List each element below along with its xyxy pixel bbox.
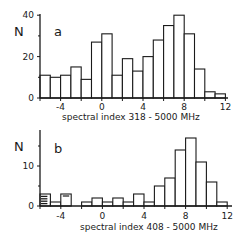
histogram-bar — [134, 194, 144, 206]
histogram-bar — [81, 79, 91, 98]
panel-a-histogram: -40481202040Naspectral index 318 - 5000 … — [14, 10, 231, 122]
histogram-bar — [154, 186, 164, 206]
x-axis-label: spectral index 408 - 5000 MHz — [80, 222, 218, 232]
histogram-bar — [92, 42, 102, 98]
histogram-bar — [184, 34, 194, 98]
histogram-bar — [40, 75, 50, 98]
x-tick-label: 4 — [140, 102, 146, 112]
panel-letter: b — [54, 141, 62, 156]
histogram-bar — [153, 40, 163, 98]
x-tick-label: 0 — [99, 102, 105, 112]
panel-b-histogram: -404812010Nbspectral index 408 - 5000 MH… — [14, 130, 233, 232]
histogram-bar — [71, 67, 81, 98]
histogram-bar — [164, 26, 174, 98]
y-axis-label: N — [14, 24, 24, 39]
histogram-bar — [102, 34, 112, 98]
histogram-bar — [206, 182, 216, 206]
histogram-bar — [92, 198, 102, 206]
x-tick-label: -4 — [56, 102, 65, 112]
histogram-bar — [174, 15, 184, 98]
histogram-bar — [196, 162, 206, 206]
y-tick-label: 20 — [23, 52, 35, 62]
x-tick-label: -4 — [56, 211, 65, 221]
histogram-bar — [133, 71, 143, 98]
y-axis-label: N — [14, 139, 24, 154]
histogram-bar — [143, 57, 153, 98]
histogram-bar — [205, 92, 215, 98]
x-tick-label: 8 — [183, 211, 189, 221]
y-tick-label: 0 — [28, 93, 34, 103]
histogram-bar — [165, 178, 175, 206]
histogram-bar — [195, 69, 205, 98]
panel-letter: a — [54, 24, 62, 39]
histogram-figure: -40481202040Naspectral index 318 - 5000 … — [0, 0, 244, 245]
x-tick-label: 8 — [181, 102, 187, 112]
histogram-bar — [175, 150, 185, 206]
histogram-bar — [61, 75, 71, 98]
x-tick-label: 0 — [100, 211, 106, 221]
x-axis-label: spectral index 318 - 5000 MHz — [62, 112, 200, 122]
y-tick-label: 0 — [28, 201, 34, 211]
histogram-bar — [186, 138, 196, 206]
histogram-bar — [113, 198, 123, 206]
x-tick-label: 4 — [141, 211, 147, 221]
y-tick-label: 40 — [23, 10, 35, 20]
x-tick-label: 12 — [220, 102, 231, 112]
histogram-bar — [50, 77, 60, 98]
y-tick-label: 10 — [23, 161, 35, 171]
x-tick-label: 12 — [221, 211, 232, 221]
histogram-bar — [122, 59, 132, 98]
histogram-bar — [112, 75, 122, 98]
